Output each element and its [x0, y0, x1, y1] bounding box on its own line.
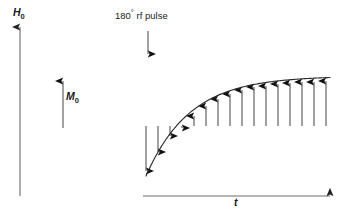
m0-label: M0 [66, 90, 79, 105]
figure-canvas: H0 M0 t 180° rf pulse [0, 0, 346, 219]
y-axis-label-text: H [13, 6, 21, 18]
y-axis-label-subscript: 0 [21, 12, 25, 21]
rf-pulse-label-suffix: rf pulse [134, 10, 168, 21]
inversion-recovery-figure [0, 0, 346, 219]
m0-label-subscript: 0 [75, 96, 79, 105]
x-axis-label: t [234, 196, 238, 208]
x-axis-label-text: t [234, 196, 238, 208]
m0-label-text: M [66, 90, 75, 102]
rf-pulse-label-value: 180 [115, 10, 131, 21]
y-axis-label: H0 [13, 6, 25, 21]
magnetization-vector-group [146, 81, 326, 171]
rf-pulse-label: 180° rf pulse [115, 10, 168, 21]
